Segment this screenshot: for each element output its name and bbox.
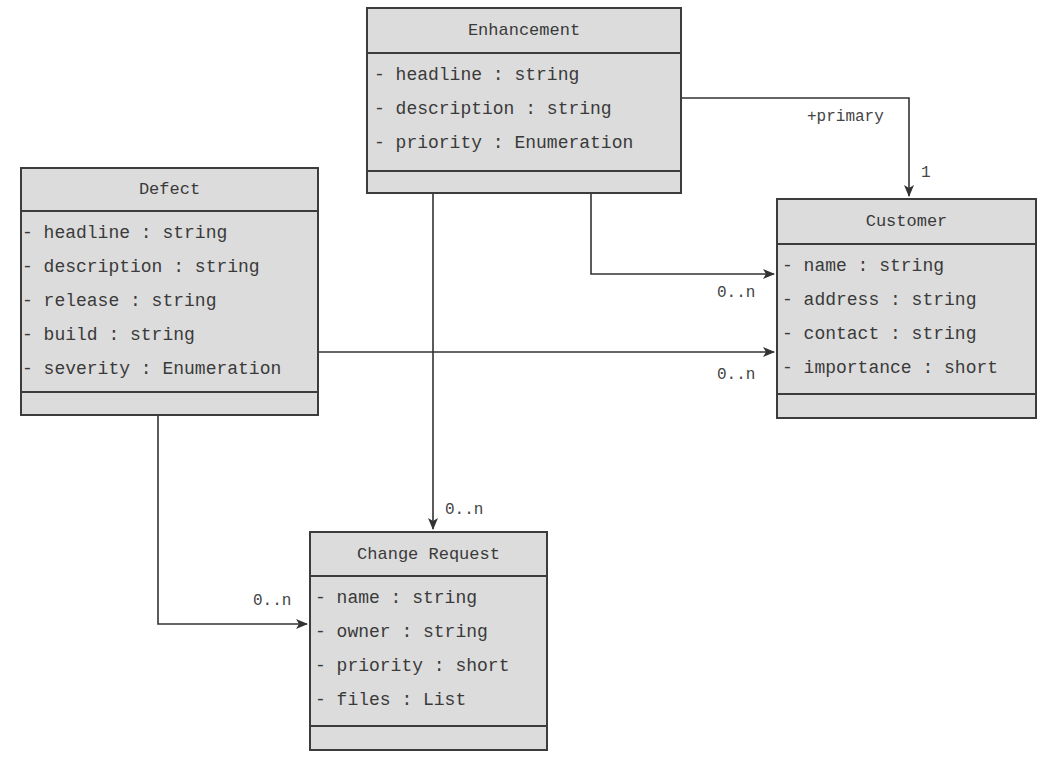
attribute: - build : string [22, 318, 317, 352]
role-label-primary: +primary [807, 108, 884, 126]
attribute: - address : string [778, 283, 1035, 317]
attribute: - name : string [311, 581, 546, 615]
class-name: Enhancement [368, 9, 680, 54]
class-defect-title: Defect [139, 180, 200, 199]
class-customer[interactable]: Customer - name : string - address : str… [776, 198, 1037, 419]
class-change-request-title: Change Request [357, 545, 500, 564]
attribute-compartment: - name : string - address : string - con… [778, 245, 1035, 395]
attribute: - release : string [22, 284, 317, 318]
attribute: - severity : Enumeration [22, 352, 317, 386]
attribute: - headline : string [22, 216, 317, 250]
multiplicity-label-defect-customer: 0..n [717, 366, 755, 384]
class-defect[interactable]: Defect - headline : string - description… [20, 167, 319, 416]
attribute: - description : string [368, 92, 680, 126]
class-name: Customer [778, 200, 1035, 245]
multiplicity-label-defect-change-request: 0..n [253, 592, 291, 610]
class-customer-title: Customer [866, 212, 948, 231]
class-name: Defect [22, 169, 317, 212]
uml-diagram-canvas: Enhancement - headline : string - descri… [0, 0, 1056, 779]
assoc-enhancement-customer [591, 193, 774, 274]
class-enhancement-title: Enhancement [468, 21, 580, 40]
class-change-request[interactable]: Change Request - name : string - owner :… [309, 531, 548, 751]
attribute: - priority : Enumeration [368, 126, 680, 160]
attribute: - files : List [311, 683, 546, 717]
attribute-compartment: - headline : string - description : stri… [368, 54, 680, 172]
attribute-compartment: - headline : string - description : stri… [22, 212, 317, 393]
attribute: - name : string [778, 249, 1035, 283]
class-name: Change Request [311, 533, 546, 577]
multiplicity-label-enhancement-customer: 0..n [717, 284, 755, 302]
multiplicity-label-enhancement-change-request: 0..n [445, 501, 483, 519]
multiplicity-label-primary: 1 [921, 164, 931, 182]
attribute: - owner : string [311, 615, 546, 649]
class-enhancement[interactable]: Enhancement - headline : string - descri… [366, 7, 682, 194]
attribute-compartment: - name : string - owner : string - prior… [311, 577, 546, 727]
attribute: - headline : string [368, 58, 680, 92]
attribute: - contact : string [778, 317, 1035, 351]
attribute: - priority : short [311, 649, 546, 683]
attribute: - description : string [22, 250, 317, 284]
attribute: - importance : short [778, 351, 1035, 385]
